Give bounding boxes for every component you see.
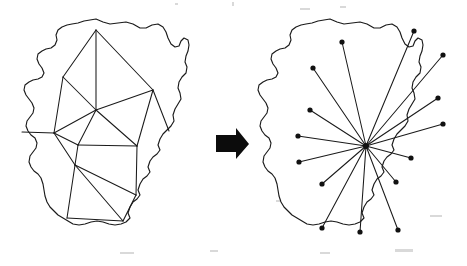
figure-root (0, 0, 467, 266)
leaf-node-dot (296, 159, 301, 164)
scan-speck (320, 252, 330, 254)
scan-speck (120, 252, 134, 254)
leaf-node-dot (440, 121, 445, 126)
leaf-node-dot (408, 155, 413, 160)
left-panel-triangulated-region (22, 19, 189, 225)
leaf-node-dot (440, 52, 445, 57)
leaf-node-dot (310, 65, 315, 70)
leaf-node-dot (357, 229, 362, 234)
leaf-node-dot (339, 39, 344, 44)
leaf-node-dot (307, 107, 312, 112)
scan-speck (300, 8, 310, 10)
scan-speck (232, 2, 234, 6)
leaf-node-dot (395, 227, 400, 232)
leaf-node-dot (319, 225, 324, 230)
right-arrow-icon (216, 128, 249, 159)
leaf-node-dot (411, 28, 416, 33)
scan-speck (210, 250, 218, 252)
leaf-node-dot (319, 181, 324, 186)
leaf-node-dot (295, 133, 300, 138)
leaf-node-dot (393, 179, 398, 184)
leaf-node-dot (435, 95, 440, 100)
scan-speck (395, 249, 413, 252)
scan-speck (340, 6, 346, 8)
right-panel-star-region (258, 19, 446, 235)
scan-speck (430, 215, 442, 217)
scan-speck (175, 3, 178, 5)
transform-arrow (216, 128, 249, 159)
figure-canvas (0, 0, 467, 266)
central-hub-dot (363, 143, 369, 149)
left-region-outline (24, 19, 189, 225)
